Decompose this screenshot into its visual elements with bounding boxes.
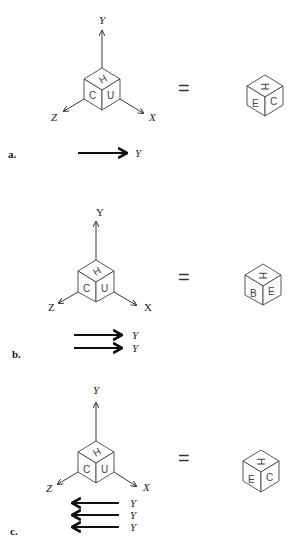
face-right: C [270,96,277,107]
rotation-axis-label: Y [130,521,138,533]
cube-left-a: H C U [84,68,120,110]
z-axis-arrow [64,99,84,111]
y-axis-label: Y [96,206,104,218]
x-axis-arrow [114,292,136,305]
rotation-arrows-a: Y [78,147,143,159]
x-axis-label: X [148,111,157,123]
cube-right-c: H E C [243,450,279,492]
face-top: H [255,458,266,465]
rotation-axis-label: Y [135,147,143,159]
face-right: U [107,90,114,101]
cube-right-a: H E C [247,75,283,116]
face-right: U [101,464,108,475]
face-left: C [83,464,90,475]
rotation-arrows-b: Y Y [74,329,140,354]
face-right: C [266,472,273,483]
face-left: E [248,474,255,485]
panel-a: Y Z X H C U = H E C Y a. [8,14,283,160]
face-top: H [257,272,268,279]
z-axis-label: Z [46,482,53,494]
rotation-axis-label: Y [130,509,138,521]
panel-label: a. [8,148,17,160]
y-axis-label: Y [99,14,107,26]
x-axis-label: X [142,481,151,493]
face-left: C [89,90,96,101]
panel-label: b. [12,348,21,360]
cube-rotation-diagram: Y Z X H C U = H E C Y a. [0,0,291,551]
face-left: B [250,288,257,299]
equals-sign: = [178,266,190,288]
face-right: U [101,283,108,294]
cube-left-b: H C U [78,260,114,302]
panel-c: Y Z X H C U = H E C Y Y Y c. [10,384,279,537]
z-axis-arrow [59,292,78,303]
z-axis-label: Z [48,301,55,313]
equals-sign: = [178,77,190,99]
cube-right-b: H B E [245,264,281,305]
z-axis-arrow [58,472,78,484]
x-axis-arrow [120,99,143,113]
rotation-arrows-c: Y Y Y [73,497,138,533]
rotation-axis-label: Y [132,329,140,341]
equals-sign: = [178,447,190,469]
face-top: H [259,83,270,90]
x-axis-arrow [114,472,136,486]
panel-b: Y Z X H C U = H B E Y Y b. [12,206,281,360]
face-left: C [83,283,90,294]
x-axis-label: X [144,301,152,313]
y-axis-label: Y [93,384,101,396]
face-right: E [268,286,275,297]
cube-left-c: H C U [78,441,114,483]
face-left: E [252,98,259,109]
rotation-axis-label: Y [130,497,138,509]
rotation-axis-label: Y [132,342,140,354]
panel-label: c. [10,525,18,537]
z-axis-label: Z [51,111,58,123]
